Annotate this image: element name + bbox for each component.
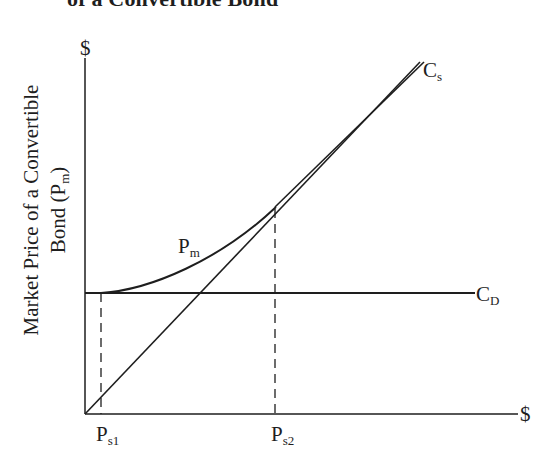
cs-line-upper xyxy=(275,62,424,207)
x-axis-dollar-label: $ xyxy=(520,404,531,425)
ps1-label: Ps1 xyxy=(96,424,119,447)
cd-label: CD xyxy=(476,284,499,307)
convertible-bond-diagram xyxy=(0,0,554,465)
y-axis-label-line1: Market Price of a Convertible xyxy=(18,60,45,360)
ps2-label: Ps2 xyxy=(271,424,294,447)
y-axis-label: Market Price of a Convertible Bond (Pm) xyxy=(18,60,78,360)
cs-label: Cs xyxy=(423,60,442,83)
y-axis-dollar-label: $ xyxy=(80,38,91,59)
y-axis-label-line2: Bond (Pm) xyxy=(45,60,78,360)
pm-label: Pm xyxy=(178,236,200,259)
